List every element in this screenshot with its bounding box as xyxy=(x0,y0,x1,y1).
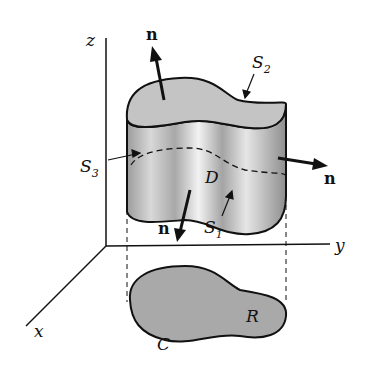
C-label: C xyxy=(157,334,170,354)
R-label: R xyxy=(245,306,259,326)
x-axis-label: x xyxy=(34,321,44,341)
y-axis xyxy=(106,244,330,246)
normal-label-bottom: n xyxy=(158,219,170,238)
S3-label: S3 xyxy=(80,156,99,180)
S2-label: S2 xyxy=(252,52,271,76)
normal-label-side: n xyxy=(324,169,336,188)
solid-region-diagram: z y x n n n S2 S3 S1 D R C xyxy=(0,0,369,371)
x-axis xyxy=(26,246,106,326)
region-R xyxy=(130,266,286,342)
D-label: D xyxy=(204,167,219,187)
diagram-svg: z y x n n n S2 S3 S1 D R C xyxy=(0,0,369,371)
top-surface-S2 xyxy=(127,78,286,129)
normal-label-top: n xyxy=(146,25,158,44)
z-axis-label: z xyxy=(85,30,96,50)
y-axis-label: y xyxy=(334,235,345,255)
